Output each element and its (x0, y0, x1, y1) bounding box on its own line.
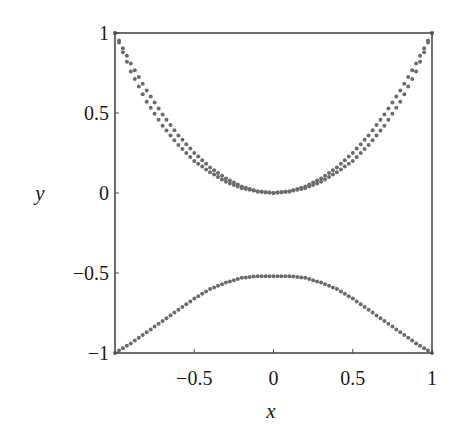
data-point (240, 186, 244, 190)
data-point (141, 82, 145, 86)
data-point (382, 319, 386, 323)
data-point (351, 159, 355, 163)
data-point (272, 191, 276, 195)
data-point (355, 147, 359, 151)
data-point (172, 311, 176, 315)
data-point (256, 274, 260, 278)
data-point (176, 143, 180, 147)
data-point (402, 92, 406, 96)
data-point (121, 46, 125, 50)
data-point (208, 170, 212, 174)
data-point (145, 100, 149, 104)
data-point (240, 276, 244, 280)
data-point (256, 189, 260, 193)
y-tick-label: −0.5 (73, 262, 109, 284)
x-axis-ticks: −0.500.51 (176, 349, 437, 389)
data-point (422, 46, 426, 50)
data-point (359, 151, 363, 155)
data-point (232, 278, 236, 282)
data-point (141, 92, 145, 96)
data-point (355, 299, 359, 303)
data-point (208, 165, 212, 169)
data-point (244, 275, 248, 279)
data-point (184, 151, 188, 155)
data-point (394, 106, 398, 110)
data-point (212, 168, 216, 172)
data-point (335, 170, 339, 174)
data-point (276, 274, 280, 278)
chart-figure: −0.500.51 10.50−0.5−1 x y (0, 0, 454, 438)
data-point (327, 171, 331, 175)
data-point (141, 333, 145, 337)
data-point (363, 305, 367, 309)
data-point (390, 112, 394, 116)
data-point (343, 158, 347, 162)
data-point (129, 69, 133, 73)
data-point (121, 346, 125, 350)
data-point (394, 95, 398, 99)
data-point (351, 297, 355, 301)
data-point (295, 275, 299, 279)
data-point (264, 190, 268, 194)
data-point (161, 124, 165, 128)
data-point (236, 185, 240, 189)
data-point (184, 302, 188, 306)
data-point (137, 336, 141, 340)
data-point (212, 285, 216, 289)
data-point (279, 274, 283, 278)
data-point (260, 274, 264, 278)
data-point (196, 155, 200, 159)
data-point (406, 336, 410, 340)
y-axis-ticks: 10.50−0.5−1 (73, 22, 119, 364)
data-point (279, 190, 283, 194)
data-point (165, 129, 169, 133)
data-point (224, 180, 228, 184)
data-point (192, 297, 196, 301)
x-tick-label: 0.5 (340, 367, 365, 389)
data-point (382, 113, 386, 117)
data-point (268, 191, 272, 195)
data-point (204, 162, 208, 166)
data-point (220, 174, 224, 178)
data-point (172, 128, 176, 132)
data-point (307, 277, 311, 281)
data-point (414, 341, 418, 345)
data-point (169, 123, 173, 127)
x-tick-label: −0.5 (176, 367, 212, 389)
data-point (212, 173, 216, 177)
data-point (180, 147, 184, 151)
data-point (379, 118, 383, 122)
data-point (422, 346, 426, 350)
data-point (347, 155, 351, 159)
data-point (176, 308, 180, 312)
data-point (410, 77, 414, 81)
data-point (157, 118, 161, 122)
data-point (180, 305, 184, 309)
data-point (169, 313, 173, 317)
data-point (252, 189, 256, 193)
data-point (331, 285, 335, 289)
data-point (410, 339, 414, 343)
data-point (260, 190, 264, 194)
data-point (375, 123, 379, 127)
data-point (161, 319, 165, 323)
series-upper-outer (113, 31, 434, 195)
data-point (220, 177, 224, 181)
data-point (180, 138, 184, 142)
data-points (113, 31, 434, 355)
x-axis-label: x (265, 399, 276, 423)
data-point (303, 276, 307, 280)
data-point (371, 128, 375, 132)
data-point (398, 330, 402, 334)
data-point (363, 147, 367, 151)
y-tick-label: −1 (88, 342, 109, 364)
data-point (133, 68, 137, 72)
data-point (319, 281, 323, 285)
data-point (188, 155, 192, 159)
data-point (149, 106, 153, 110)
data-point (196, 294, 200, 298)
data-point (303, 186, 307, 190)
data-point (398, 89, 402, 93)
data-point (283, 274, 287, 278)
data-point (125, 54, 129, 58)
